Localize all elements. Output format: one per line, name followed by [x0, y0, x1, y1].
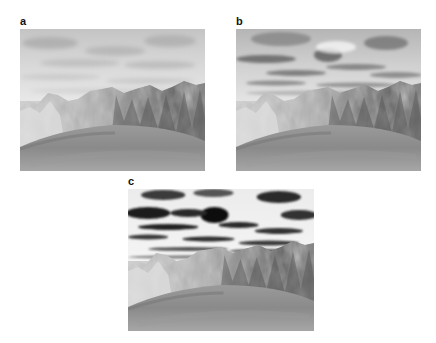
terrain-image-c: [128, 189, 314, 331]
panel-label-c: c: [128, 176, 134, 187]
terrain-image-b: [236, 29, 421, 171]
panel-label-b: b: [236, 16, 243, 27]
panel-label-a: a: [20, 16, 26, 27]
terrain-image-a: [20, 29, 205, 171]
